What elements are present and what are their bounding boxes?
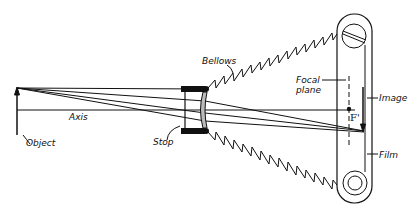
bottom-roller bbox=[343, 171, 367, 195]
top-roller bbox=[342, 24, 366, 48]
film-holder bbox=[337, 14, 372, 203]
object-label: Object bbox=[26, 138, 56, 148]
focal-plane-label-2: plane bbox=[295, 85, 321, 95]
focal-point-label: F' bbox=[350, 112, 360, 123]
axis-label: Axis bbox=[68, 112, 88, 122]
film-label: Film bbox=[379, 150, 398, 160]
bellows-label: Bellows bbox=[202, 56, 237, 66]
stop-label: Stop bbox=[153, 137, 174, 147]
image-label: Image bbox=[379, 93, 408, 103]
camera-diagram: Bellows Focal plane Image Axis Object St… bbox=[0, 0, 419, 218]
focal-plane-label-1: Focal bbox=[296, 75, 320, 85]
focal-point bbox=[347, 107, 351, 111]
bellows-bottom bbox=[208, 132, 337, 189]
